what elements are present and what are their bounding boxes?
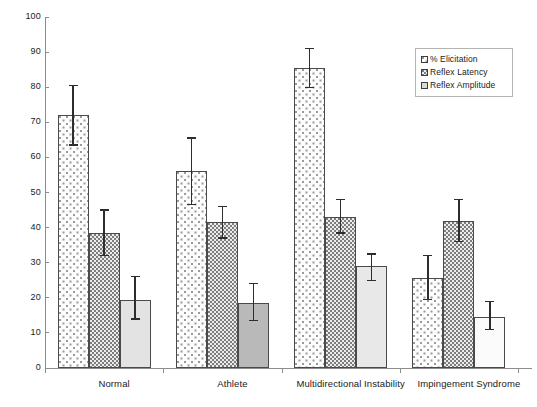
error-bar-cap-upper (218, 206, 227, 207)
y-axis-tick-label-wrap: 0 (0, 363, 41, 372)
legend-label: Reflex Latency (430, 68, 488, 77)
legend-item: Reflex Amplitude (421, 79, 508, 92)
error-bar-line (134, 277, 135, 319)
error-bar-cap-lower (187, 204, 196, 205)
error-bar-line (222, 207, 223, 239)
error-bar-cap-lower (131, 318, 140, 319)
legend-swatch-icon (421, 56, 428, 63)
error-bar-cap-upper (423, 255, 432, 256)
y-axis-tick-label-wrap: 100 (0, 12, 41, 21)
legend-label: % Elicitation (430, 55, 478, 64)
bar-multidirectional-instability-elicitation (294, 68, 325, 368)
legend-swatch-icon (421, 69, 428, 76)
x-axis-tick (518, 368, 519, 373)
y-axis-tick-label: 90 (3, 47, 41, 56)
error-bar-line (191, 138, 192, 205)
y-axis-tick-label: 100 (3, 12, 41, 21)
y-axis-tick (45, 332, 49, 333)
x-axis-tick (282, 368, 283, 373)
y-axis-tick-label-wrap: 70 (0, 117, 41, 126)
error-bar-line (253, 284, 254, 321)
y-axis-tick (45, 52, 49, 53)
y-axis-tick-label-wrap: 30 (0, 258, 41, 267)
y-axis-tick-label: 60 (3, 152, 41, 161)
error-bar-cap-upper (100, 209, 109, 210)
error-bar-cap-lower (305, 87, 314, 88)
error-bar-cap-upper (131, 276, 140, 277)
error-bar-line (489, 301, 490, 329)
error-bar-cap-upper (336, 199, 345, 200)
legend-swatch-icon (421, 82, 428, 89)
bar-chart: 0102030405060708090100 NormalAthleteMult… (0, 0, 537, 407)
error-bar-line (427, 256, 428, 300)
x-axis-category-label: Impingement Syndrome (389, 378, 537, 389)
error-bar-cap-lower (454, 241, 463, 242)
y-axis-tick-label-wrap: 50 (0, 188, 41, 197)
legend-item: % Elicitation (421, 53, 508, 66)
error-bar-cap-upper (305, 48, 314, 49)
bar-multidirectional-instability-reflex-amplitude (356, 266, 387, 368)
y-axis-tick (45, 122, 49, 123)
y-axis-tick-label: 50 (3, 188, 41, 197)
error-bar-line (340, 200, 341, 233)
y-axis-tick-label: 80 (3, 82, 41, 91)
x-axis-line (45, 368, 532, 369)
error-bar-cap-upper (485, 301, 494, 302)
y-axis-tick-label: 0 (3, 363, 41, 372)
error-bar-cap-lower (336, 232, 345, 233)
y-axis-tick-label: 20 (3, 293, 41, 302)
error-bar-cap-upper (69, 85, 78, 86)
y-axis-tick-label: 40 (3, 223, 41, 232)
legend-item: Reflex Latency (421, 66, 508, 79)
error-bar-cap-upper (187, 137, 196, 138)
error-bar-line (103, 210, 104, 256)
y-axis-tick-label-wrap: 80 (0, 82, 41, 91)
y-axis-tick-label-wrap: 60 (0, 152, 41, 161)
legend-label: Reflex Amplitude (430, 81, 495, 90)
y-axis-tick-label: 70 (3, 117, 41, 126)
y-axis-tick-label: 30 (3, 258, 41, 267)
error-bar-cap-lower (100, 255, 109, 256)
x-axis-tick (400, 368, 401, 373)
y-axis-tick-label: 10 (3, 328, 41, 337)
error-bar-line (458, 200, 459, 242)
error-bar-cap-lower (69, 144, 78, 145)
error-bar-cap-upper (367, 253, 376, 254)
error-bar-cap-upper (249, 283, 258, 284)
error-bar-line (72, 85, 73, 145)
x-axis-tick (45, 368, 46, 373)
bar-athlete-reflex-latency (207, 222, 238, 368)
chart-legend: % ElicitationReflex LatencyReflex Amplit… (415, 48, 513, 97)
y-axis-tick-label-wrap: 20 (0, 293, 41, 302)
bar-normal-elicitation (58, 115, 89, 368)
y-axis-tick (45, 87, 49, 88)
error-bar-cap-lower (485, 329, 494, 330)
error-bar-cap-upper (454, 199, 463, 200)
error-bar-line (371, 254, 372, 280)
bar-impingement-syndrome-reflex-latency (443, 221, 474, 368)
y-axis-tick (45, 227, 49, 228)
y-axis-tick (45, 157, 49, 158)
y-axis-tick (45, 297, 49, 298)
bar-multidirectional-instability-reflex-latency (325, 217, 356, 368)
y-axis-tick-label-wrap: 90 (0, 47, 41, 56)
y-axis-tick (45, 17, 49, 18)
y-axis-tick-label-wrap: 40 (0, 223, 41, 232)
x-axis-tick (163, 368, 164, 373)
error-bar-cap-lower (423, 299, 432, 300)
y-axis-tick-label-wrap: 10 (0, 328, 41, 337)
error-bar-cap-lower (249, 320, 258, 321)
y-axis-tick (45, 192, 49, 193)
y-axis-tick (45, 262, 49, 263)
error-bar-cap-lower (367, 280, 376, 281)
error-bar-line (309, 49, 310, 88)
error-bar-cap-lower (218, 237, 227, 238)
